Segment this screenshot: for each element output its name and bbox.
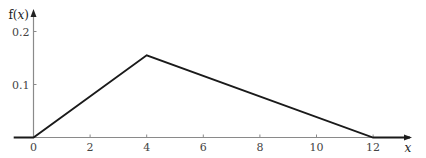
x-tick-label: 8	[256, 141, 263, 154]
x-tick-label: 0	[30, 141, 37, 154]
y-axis-label-close: )	[24, 8, 29, 22]
y-axis-label: f(x)	[8, 8, 29, 22]
x-tick-label: 12	[366, 141, 380, 154]
y-axis-arrow-icon	[31, 9, 37, 17]
x-tick-label: 4	[143, 141, 150, 154]
x-tick-label: 10	[310, 141, 324, 154]
x-tick-label: 6	[200, 141, 207, 154]
y-axis-label-f: f(	[8, 8, 17, 22]
chart: 024681012 0.10.2 f(x) x	[0, 0, 426, 158]
y-tick-label: 0.1	[12, 79, 30, 92]
y-ticks: 0.10.2	[12, 26, 37, 92]
density-line	[14, 55, 410, 137]
y-tick-label: 0.2	[12, 26, 30, 39]
x-axis-label: x	[405, 141, 412, 155]
x-tick-label: 2	[87, 141, 94, 154]
